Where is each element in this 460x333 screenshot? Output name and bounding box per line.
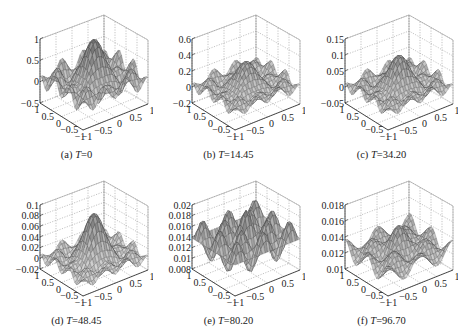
z-tick-label: 0.1 [27, 200, 40, 211]
z-tick-label: 0.06 [22, 221, 40, 232]
z-tick-label: 0.02 [22, 242, 40, 253]
x-tick-label: 1 [35, 104, 40, 115]
y-tick-label: 0 [117, 284, 122, 295]
panel-caption: (c) T=34.20 [305, 149, 458, 160]
z-tick-label: 0.5 [27, 55, 40, 66]
y-tick-label: 0.5 [435, 278, 448, 289]
z-tick-label: 0.05 [327, 66, 345, 77]
z-tick-label: 0.6 [179, 34, 192, 45]
y-tick-label: 0 [269, 284, 274, 295]
y-tick-label: 0.5 [130, 112, 143, 123]
y-tick-label: 0 [117, 118, 122, 129]
y-tick-label: −1 [82, 131, 93, 142]
x-tick-label: 1 [340, 104, 345, 115]
z-tick-label: 0.016 [322, 216, 345, 227]
y-tick-label: −1 [387, 297, 398, 308]
y-tick-label: −0.5 [94, 125, 112, 136]
surface-plot-a: 10.50−0.510.50−0.5−1−1−0.500.51(a) T=0 [0, 0, 153, 166]
z-tick-label: 1 [34, 34, 39, 45]
z-tick-label: 0.2 [179, 66, 192, 77]
z-tick-label: 0.014 [322, 232, 345, 243]
y-tick-label: −0.5 [94, 291, 112, 302]
x-tick-label: 1 [35, 270, 40, 281]
x-tick-label: 0.5 [347, 111, 360, 122]
y-tick-label: 1 [455, 271, 459, 282]
y-tick-label: −1 [82, 297, 93, 308]
z-tick-label: 0.4 [179, 50, 192, 61]
z-tick-label: 0.016 [169, 221, 192, 232]
panel-caption: (b) T=14.45 [152, 149, 305, 160]
y-tick-label: −0.5 [399, 291, 417, 302]
y-tick-label: 0 [269, 118, 274, 129]
y-tick-label: 0 [422, 118, 427, 129]
z-tick-label: 0.01 [174, 253, 192, 264]
z-tick-label: 0.012 [169, 242, 192, 253]
y-tick-label: −0.5 [399, 125, 417, 136]
z-tick-label: 0.04 [22, 232, 40, 243]
x-tick-label: 1 [187, 270, 192, 281]
z-tick-label: 0 [34, 253, 39, 264]
z-tick-label: 0.08 [22, 210, 40, 221]
y-tick-label: −1 [234, 131, 245, 142]
z-tick-label: 0.018 [322, 200, 345, 211]
panel-caption: (e) T=80.20 [152, 315, 305, 326]
x-tick-label: 0.5 [194, 111, 207, 122]
surface-mesh [192, 201, 300, 272]
surface-mesh [345, 56, 453, 114]
surface-plot-e: 0.020.0180.0160.0140.0120.010.00810.50−0… [152, 166, 305, 332]
surface-mesh [192, 58, 300, 114]
z-tick-label: 0.15 [327, 34, 345, 45]
surface-plot-d: 0.10.080.060.040.020−0.0210.50−0.5−1−1−0… [0, 166, 153, 332]
y-tick-label: −1 [387, 131, 398, 142]
y-tick-label: −0.5 [246, 291, 264, 302]
z-tick-label: 0.018 [169, 210, 192, 221]
z-tick-label: 0.02 [174, 200, 192, 211]
surface-plot-f: 0.0180.0160.0140.0120.0110.50−0.5−1−1−0.… [305, 166, 458, 332]
z-tick-label: 0.012 [322, 248, 345, 259]
y-tick-label: 0.5 [282, 112, 295, 123]
panel-caption: (a) T=0 [0, 149, 153, 160]
z-tick-label: 0 [186, 82, 191, 93]
panel-caption: (d) T=48.45 [0, 315, 153, 326]
y-tick-label: −0.5 [246, 125, 264, 136]
y-tick-label: 0.5 [282, 278, 295, 289]
x-tick-label: 0.5 [347, 277, 360, 288]
surface-mesh [40, 214, 148, 285]
x-tick-label: 0.5 [194, 277, 207, 288]
z-tick-label: 0.1 [332, 50, 345, 61]
y-tick-label: 0 [422, 284, 427, 295]
x-tick-label: 1 [340, 270, 345, 281]
x-tick-label: 0.5 [42, 277, 55, 288]
z-tick-label: 0.014 [169, 232, 192, 243]
y-tick-label: 0.5 [130, 278, 143, 289]
x-tick-label: 0.5 [42, 111, 55, 122]
surface-plot-c: 0.150.10.050−0.0510.50−0.5−1−1−0.500.51(… [305, 0, 458, 166]
x-tick-label: 1 [187, 104, 192, 115]
y-tick-label: 1 [455, 105, 459, 116]
panel-caption: (f) T=96.70 [305, 315, 458, 326]
y-tick-label: −1 [234, 297, 245, 308]
surface-plot-b: 0.60.40.20−0.210.50−0.5−1−1−0.500.51(b) … [152, 0, 305, 166]
y-tick-label: 0.5 [435, 112, 448, 123]
z-tick-label: 0 [34, 76, 39, 87]
z-tick-label: 0 [339, 82, 344, 93]
